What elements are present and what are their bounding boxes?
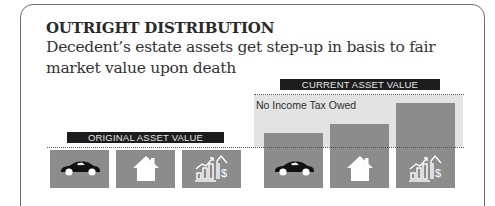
growth-chart-dollar-icon: $ [396, 150, 455, 186]
svg-text:$: $ [221, 167, 227, 179]
original-car-box [50, 150, 109, 188]
current-investments-box: $ [396, 103, 455, 188]
current-house-box [330, 124, 389, 188]
house-icon [116, 150, 175, 186]
original-value-line [47, 147, 464, 148]
house-icon [330, 150, 389, 186]
car-icon [264, 150, 323, 186]
original-investments-box: $ [182, 150, 241, 188]
page-subtitle: Decedent’s estate assets get step-up in … [46, 37, 466, 79]
svg-text:$: $ [435, 167, 441, 179]
page-title: OUTRIGHT DISTRIBUTION [46, 19, 274, 37]
current-car-box [264, 133, 323, 188]
car-icon [50, 150, 109, 186]
original-asset-value-label: ORIGINAL ASSET VALUE [67, 132, 224, 143]
no-income-tax-note: No Income Tax Owed [256, 99, 356, 111]
original-house-box [116, 150, 175, 188]
growth-chart-dollar-icon: $ [182, 150, 241, 186]
current-value-line [254, 94, 464, 95]
current-asset-value-label: CURRENT ASSET VALUE [280, 79, 440, 90]
